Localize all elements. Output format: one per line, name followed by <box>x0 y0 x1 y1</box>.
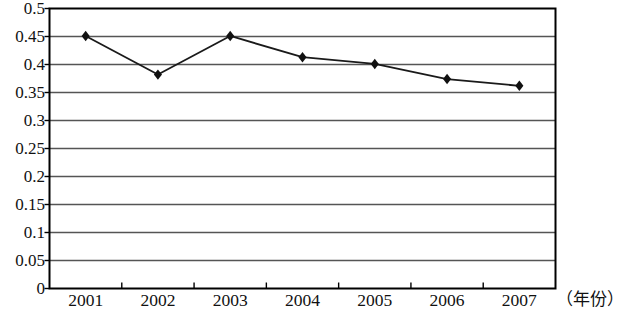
line-chart: 00.050.10.150.20.250.30.350.40.450.5 200… <box>0 0 619 316</box>
data-point-marker <box>298 52 306 62</box>
x-axis-tick-label: 2002 <box>118 292 198 310</box>
data-markers <box>82 31 524 91</box>
x-axis-tick-label: 2005 <box>335 292 415 310</box>
data-point-marker <box>515 81 523 91</box>
data-point-marker <box>82 31 90 41</box>
data-point-marker <box>371 59 379 69</box>
x-axis-title: （年份） <box>556 291 619 308</box>
plot-area <box>0 0 619 316</box>
x-axis-tick-label: 2003 <box>190 292 270 310</box>
x-axis-tick-label: 2006 <box>407 292 487 310</box>
x-axis-tick-label: 2001 <box>46 292 126 310</box>
data-point-marker <box>443 74 451 84</box>
gridlines <box>45 9 556 289</box>
data-point-marker <box>226 31 234 41</box>
data-point-marker <box>154 69 162 79</box>
x-axis-tick-label: 2007 <box>479 292 559 310</box>
x-axis-tick-label: 2004 <box>263 292 343 310</box>
